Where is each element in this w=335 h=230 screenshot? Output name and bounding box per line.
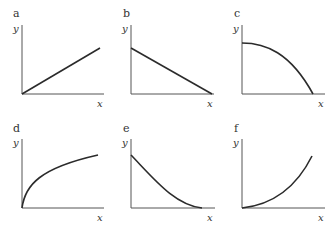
panel-b: b y x [121, 7, 214, 109]
y-axis-label: y [12, 137, 19, 148]
panel-label-e: e [123, 122, 130, 135]
curve-linear-decreasing [131, 48, 212, 94]
curve-linear-increasing [22, 48, 100, 94]
curve-concave-up-decreasing [131, 155, 202, 208]
axes [22, 139, 104, 208]
x-axis-label: x [318, 212, 324, 223]
panel-label-b: b [123, 7, 130, 20]
panel-c: c y x [232, 7, 325, 109]
curve-concave-down-increasing [22, 155, 98, 208]
panel-e: e y x [121, 122, 215, 223]
x-axis-label: x [207, 212, 213, 223]
x-axis-label: x [97, 98, 103, 109]
y-axis-label: y [232, 137, 239, 148]
curve-concave-up-increasing [242, 156, 312, 208]
panel-a: a y x [12, 7, 104, 109]
panel-label-a: a [13, 7, 20, 20]
axes [242, 139, 325, 208]
y-axis-label: y [232, 23, 239, 34]
panel-label-c: c [234, 7, 240, 20]
axes [242, 25, 325, 94]
panel-d: d y x [12, 122, 104, 223]
x-axis-label: x [97, 212, 103, 223]
axes [131, 139, 215, 208]
x-axis-label: x [318, 98, 324, 109]
axes [131, 25, 214, 94]
panel-f: f y x [232, 122, 325, 223]
y-axis-label: y [121, 23, 128, 34]
panel-label-f: f [234, 122, 239, 135]
x-axis-label: x [207, 98, 213, 109]
panel-label-d: d [13, 122, 20, 135]
y-axis-label: y [12, 23, 19, 34]
y-axis-label: y [121, 137, 128, 148]
curve-concave-down-decreasing [242, 43, 313, 94]
function-sketch-grid: a y x b y x c y x d y x e y x f y [0, 0, 335, 230]
axes [22, 25, 104, 94]
